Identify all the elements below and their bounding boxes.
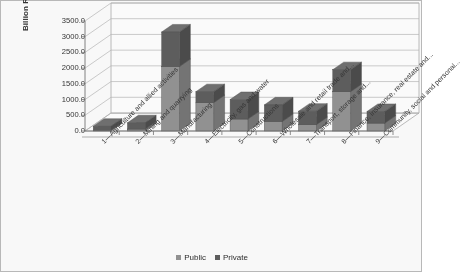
legend-label: Private xyxy=(223,253,248,262)
x-tick-label: 7—Transport, storage and... xyxy=(305,78,372,145)
legend-label: Public xyxy=(184,253,206,262)
chart-legend: PublicPrivate xyxy=(1,253,423,262)
x-axis-tick-labels: 1—Agriculture and allied activities2—Min… xyxy=(1,1,423,272)
legend-item[interactable]: Public xyxy=(176,253,206,262)
x-tick-label: 4—Electricity, gas and water xyxy=(203,78,270,145)
legend-item[interactable]: Private xyxy=(215,253,248,262)
legend-swatch xyxy=(215,255,220,260)
legend-swatch xyxy=(176,255,181,260)
